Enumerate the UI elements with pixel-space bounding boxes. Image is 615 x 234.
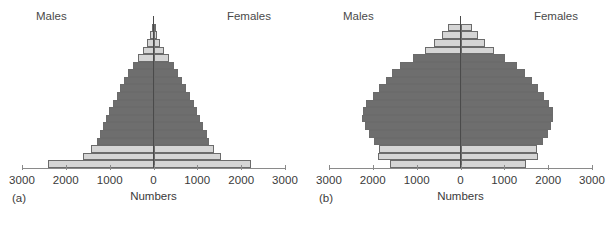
pyramid-bar-male	[373, 92, 461, 100]
pyramid-bar-female	[461, 100, 550, 108]
pyramid-bar-male	[374, 138, 461, 146]
x-axis-tick-label: 3000	[272, 174, 298, 186]
pyramid-bar-female	[461, 39, 486, 47]
population-pyramid-figure: Males Females 3000200010000100020003000 …	[0, 0, 615, 234]
pyramid-bar-male	[128, 69, 153, 77]
pyramid-bar-female	[154, 107, 198, 115]
pyramid-bar-female	[154, 92, 190, 100]
x-axis-tick	[22, 165, 23, 170]
center-axis-line-b	[460, 16, 461, 168]
pyramid-bar-female	[154, 153, 222, 161]
pyramid-bar-female	[154, 69, 179, 77]
pyramid-bar-male	[362, 115, 460, 123]
pyramid-bar-female	[461, 92, 544, 100]
pyramid-bar-male	[100, 130, 154, 138]
x-axis-tick-label: 3000	[316, 174, 342, 186]
x-axis-tick-label: 2000	[535, 174, 561, 186]
x-axis-tick-label: 2000	[228, 174, 254, 186]
x-axis-tick-label: 1000	[184, 174, 210, 186]
x-axis-tick-label: 0	[150, 174, 157, 186]
pyramid-bar-female	[461, 153, 538, 161]
x-axis-tick-label: 3000	[579, 174, 605, 186]
pyramid-bar-female	[154, 47, 165, 55]
panel-a: Males Females 3000200010000100020003000 …	[0, 0, 307, 234]
pyramid-bar-female	[154, 62, 174, 70]
x-axis-tick-label: 2000	[360, 174, 386, 186]
pyramid-bar-male	[113, 100, 154, 108]
panel-b: Males Females 3000200010000100020003000 …	[307, 0, 614, 234]
x-axis-title-a: Numbers	[0, 190, 307, 202]
x-axis-tick	[548, 165, 549, 170]
pyramid-bar-male	[133, 62, 154, 70]
pyramid-bar-female	[154, 138, 210, 146]
pyramid-bar-female	[461, 24, 472, 32]
pyramid-bar-female	[461, 130, 548, 138]
pyramid-bar-female	[461, 62, 518, 70]
pyramid-bar-male	[413, 54, 460, 62]
pyramid-bar-male	[379, 84, 461, 92]
pyramid-bar-male	[83, 153, 154, 161]
pyramid-bar-male	[379, 145, 461, 153]
pyramid-bar-male	[124, 77, 153, 85]
pyramid-bar-female	[461, 54, 505, 62]
x-axis-tick	[592, 165, 593, 170]
x-axis-tick	[504, 165, 505, 170]
x-axis-tick-label: 2000	[53, 174, 79, 186]
pyramid-bar-female	[154, 54, 169, 62]
pyramid-bar-female	[461, 115, 554, 123]
pyramid-bar-female	[461, 107, 553, 115]
pyramid-bar-male	[392, 69, 460, 77]
pyramid-bar-male	[400, 62, 460, 70]
pyramid-bar-male	[138, 54, 154, 62]
pyramid-bar-female	[461, 122, 551, 130]
plot-area-b	[329, 16, 592, 168]
pyramid-bar-male	[390, 160, 460, 168]
pyramid-bar-male	[117, 92, 154, 100]
x-axis-tick	[329, 165, 330, 170]
pyramid-bar-male	[143, 47, 154, 55]
pyramid-bar-female	[461, 84, 539, 92]
pyramid-bar-female	[154, 31, 157, 39]
x-axis-tick-label: 1000	[404, 174, 430, 186]
x-axis-tick-label: 1000	[491, 174, 517, 186]
pyramid-bar-female	[461, 31, 478, 39]
center-axis-line-a	[153, 16, 154, 168]
pyramid-bar-female	[461, 69, 525, 77]
x-axis-tick	[241, 165, 242, 170]
x-axis-tick	[285, 165, 286, 170]
pyramid-bar-male	[442, 31, 460, 39]
pyramid-bar-male	[91, 145, 154, 153]
pyramid-bar-female	[461, 77, 532, 85]
pyramid-bar-female	[461, 47, 495, 55]
pyramid-bar-male	[365, 122, 461, 130]
pyramid-bar-female	[154, 77, 183, 85]
pyramid-bar-female	[154, 145, 215, 153]
pyramid-bar-female	[461, 138, 543, 146]
x-axis-tick	[417, 165, 418, 170]
x-axis-tick	[110, 165, 111, 170]
pyramid-bar-male	[378, 153, 460, 161]
x-axis-tick	[197, 165, 198, 170]
pyramid-bar-male	[120, 84, 153, 92]
pyramid-bar-female	[461, 145, 537, 153]
pyramid-bar-male	[434, 39, 460, 47]
pyramid-bar-male	[48, 160, 153, 168]
x-axis-tick-label: 0	[457, 174, 464, 186]
pyramid-bar-male	[363, 107, 461, 115]
x-axis-tick-label: 1000	[97, 174, 123, 186]
panel-label-b: (b)	[319, 192, 333, 204]
pyramid-bar-male	[103, 122, 154, 130]
pyramid-bar-female	[154, 122, 204, 130]
pyramid-bar-female	[154, 100, 194, 108]
pyramid-bar-male	[448, 24, 460, 32]
x-axis-tick-labels-a: 3000200010000100020003000	[0, 174, 307, 188]
pyramid-bar-male	[97, 138, 154, 146]
pyramid-bar-female	[154, 84, 187, 92]
pyramid-bar-female	[154, 39, 160, 47]
pyramid-bar-male	[366, 100, 460, 108]
plot-area-a	[22, 16, 285, 168]
x-axis-title-b: Numbers	[307, 190, 614, 202]
x-axis-tick-labels-b: 3000200010000100020003000	[307, 174, 614, 188]
panel-label-a: (a)	[12, 192, 26, 204]
pyramid-bar-male	[109, 107, 153, 115]
